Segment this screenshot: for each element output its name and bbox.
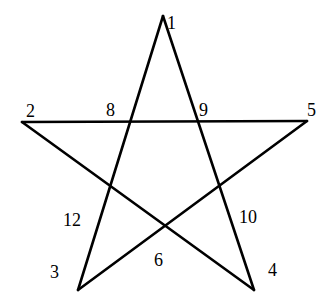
pentagram-diagram: 1 2 8 9 5 12 10 3 6 4	[0, 0, 336, 305]
edge-1-3	[78, 16, 163, 290]
label-12: 12	[63, 210, 81, 230]
label-2: 2	[26, 101, 35, 121]
star-edges	[22, 16, 307, 290]
label-5: 5	[307, 100, 316, 120]
edge-1-4	[163, 16, 254, 290]
label-9: 9	[199, 100, 208, 120]
label-1: 1	[167, 13, 176, 33]
edge-2-5	[22, 121, 307, 122]
label-6: 6	[154, 250, 163, 270]
label-3: 3	[50, 262, 59, 282]
label-8: 8	[106, 100, 115, 120]
label-4: 4	[268, 260, 277, 280]
label-10: 10	[239, 207, 257, 227]
